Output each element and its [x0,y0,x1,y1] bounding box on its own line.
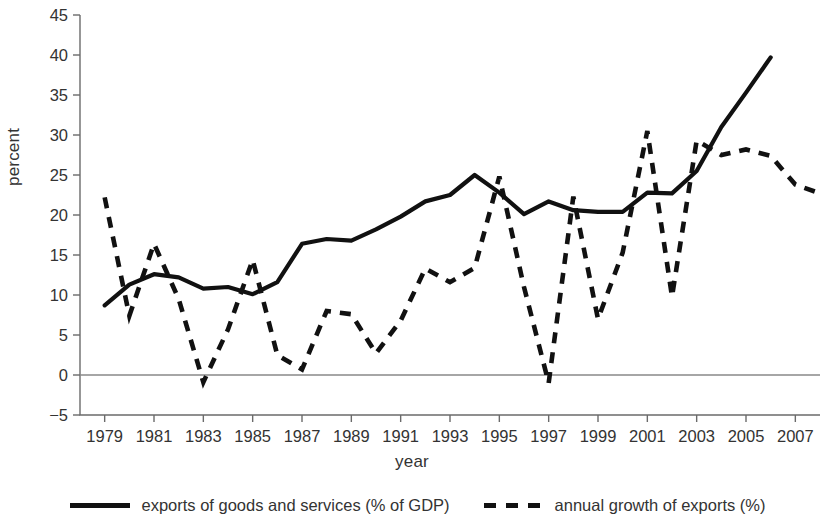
y-tick-label: 45 [50,6,68,24]
y-tick-label: 0 [59,366,68,384]
y-tick-label: 25 [50,166,68,184]
x-tick-label: 1979 [86,427,123,445]
x-tick-label: 1991 [382,427,419,445]
y-tick-label-group: 454035302520151050−5 [49,6,68,424]
x-tick-label: 1985 [234,427,271,445]
x-tick-label: 1999 [580,427,617,445]
x-tick-label: 1983 [185,427,222,445]
legend-swatch-dashed-icon [484,503,544,508]
legend-item-exports-share: exports of goods and services (% of GDP) [70,496,449,515]
y-tick-mark-group [73,15,80,415]
x-tick-label: 2007 [777,427,814,445]
legend-label-export-growth: annual growth of exports (%) [555,496,766,515]
axis-frame [80,15,820,415]
chart-legend: exports of goods and services (% of GDP)… [0,496,836,515]
x-tick-label: 1997 [530,427,567,445]
y-tick-label: 5 [59,326,68,344]
x-tick-label: 1993 [432,427,469,445]
plot-area: 454035302520151050−5 1979198119831985198… [0,0,836,490]
y-tick-label: 30 [50,126,68,144]
chart-figure: percent year 454035302520151050−5 197919… [0,0,836,532]
y-tick-label: 40 [50,46,68,64]
x-tick-label: 1987 [284,427,321,445]
y-tick-label: −5 [49,406,68,424]
x-tick-label: 1981 [136,427,173,445]
y-tick-label: 20 [50,206,68,224]
y-tick-label: 10 [50,286,68,304]
x-tick-mark-group [105,415,796,422]
x-tick-label: 2001 [629,427,666,445]
y-tick-label: 15 [50,246,68,264]
y-tick-label: 35 [50,86,68,104]
legend-swatch-solid-icon [70,503,130,508]
x-tick-label: 1989 [333,427,370,445]
legend-label-exports-share: exports of goods and services (% of GDP) [141,496,449,515]
x-tick-label: 2003 [678,427,715,445]
series-line-exports-share [105,57,771,305]
series-line-export-growth [105,131,820,383]
legend-item-export-growth: annual growth of exports (%) [484,496,766,515]
x-tick-label: 2005 [728,427,765,445]
x-tick-label-group: 1979198119831985198719891991199319951997… [86,427,813,445]
x-tick-label: 1995 [481,427,518,445]
